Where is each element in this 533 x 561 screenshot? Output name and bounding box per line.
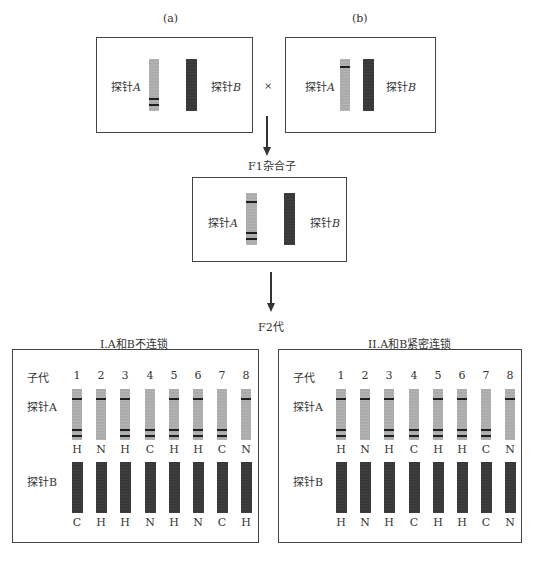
lane-probe-b <box>409 462 420 513</box>
band-lower <box>457 429 467 431</box>
progeny-number: 7 <box>215 369 229 382</box>
lane-probe-a <box>241 389 251 440</box>
band-lower <box>217 429 227 431</box>
lanes-container: 1HH2NN3HH4CC5HH6HH7CC8NN <box>279 350 521 542</box>
band-top <box>120 398 130 400</box>
lane-probe-b <box>433 462 444 513</box>
band-lower <box>120 429 130 431</box>
lane-probe-b <box>241 462 252 513</box>
genotype-probe-a: C <box>215 443 229 456</box>
band-lower <box>481 429 491 431</box>
lane-probe-a <box>336 389 346 440</box>
lane-probe-a <box>169 389 179 440</box>
probe-b-label: 探针B <box>386 78 416 94</box>
arrow-down-icon <box>263 147 271 156</box>
genotype-probe-b: C <box>407 516 421 529</box>
progeny-number: 8 <box>503 369 517 382</box>
lane-probe-a <box>246 193 257 245</box>
genotype-probe-a: H <box>431 443 445 456</box>
band-top <box>241 398 251 400</box>
genotype-probe-a: C <box>143 443 157 456</box>
band-lower <box>457 435 467 437</box>
progeny-number: 5 <box>431 369 445 382</box>
band-top <box>505 398 515 400</box>
probe-a-label: 探针A <box>111 78 141 94</box>
genotype-probe-b: C <box>215 516 229 529</box>
band-lower <box>336 435 346 437</box>
genotype-probe-b: H <box>382 516 396 529</box>
genotype-probe-b: H <box>431 516 445 529</box>
genotype-probe-a: H <box>334 443 348 456</box>
genotype-probe-b: H <box>455 516 469 529</box>
panel-1-box: 子代 探针A 探针B 1HC2NH3HH4CN5HH6HN7CC8NH <box>12 349 259 543</box>
lane-probe-a <box>360 389 370 440</box>
band-top <box>336 398 346 400</box>
genotype-probe-b: N <box>503 516 517 529</box>
progeny-number: 6 <box>455 369 469 382</box>
genotype-probe-a: H <box>167 443 181 456</box>
f1-label: F1杂合子 <box>248 157 296 173</box>
genotype-probe-a: H <box>118 443 132 456</box>
lane-probe-b <box>193 462 204 513</box>
lane-probe-b <box>186 59 197 111</box>
lane-probe-a <box>120 389 130 440</box>
genotype-probe-b: H <box>118 516 132 529</box>
lane-probe-a <box>409 389 419 440</box>
genotype-probe-a: H <box>455 443 469 456</box>
genotype-probe-a: H <box>191 443 205 456</box>
band-top <box>169 398 179 400</box>
lane-probe-b <box>145 462 156 513</box>
progeny-number: 5 <box>167 369 181 382</box>
arrow-down-icon <box>267 303 275 312</box>
lane-probe-a <box>72 389 82 440</box>
progeny-number: 7 <box>479 369 493 382</box>
lane-probe-a <box>457 389 467 440</box>
genotype-probe-b: H <box>94 516 108 529</box>
probe-b-label: 探针B <box>310 214 340 230</box>
band-lower <box>145 435 155 437</box>
progeny-number: 8 <box>239 369 253 382</box>
lane-probe-b <box>284 193 295 245</box>
lane-probe-a <box>145 389 155 440</box>
lane-probe-b <box>217 462 228 513</box>
lane-probe-b <box>505 462 516 513</box>
band-top <box>72 398 82 400</box>
lane-probe-b <box>384 462 395 513</box>
progeny-number: 2 <box>358 369 372 382</box>
lane-probe-a <box>340 59 350 111</box>
lane-probe-a <box>96 389 106 440</box>
genotype-probe-a: N <box>358 443 372 456</box>
band-lower <box>169 429 179 431</box>
progeny-number: 4 <box>407 369 421 382</box>
progeny-number: 1 <box>334 369 348 382</box>
lane-probe-a <box>481 389 491 440</box>
lane-probe-b <box>169 462 180 513</box>
lane-probe-a <box>384 389 394 440</box>
parent-a-box: 探针A 探针B <box>96 37 253 133</box>
parent-b-label: (b) <box>352 12 368 25</box>
genotype-probe-a: H <box>382 443 396 456</box>
genotype-probe-b: N <box>191 516 205 529</box>
lane-probe-b <box>360 462 371 513</box>
probe-a-label: 探针A <box>305 78 335 94</box>
band-top <box>360 398 370 400</box>
genotype-probe-b: C <box>479 516 493 529</box>
lane-probe-a <box>433 389 443 440</box>
lane-probe-b <box>96 462 107 513</box>
genotype-probe-b: H <box>239 516 253 529</box>
band-top <box>384 398 394 400</box>
probe-b-label: 探针B <box>211 78 241 94</box>
band-lower <box>169 435 179 437</box>
genotype-probe-a: N <box>503 443 517 456</box>
progeny-number: 1 <box>70 369 84 382</box>
cross-symbol: × <box>264 80 272 91</box>
probe-a-label: 探针A <box>208 214 238 230</box>
band-lower <box>384 435 394 437</box>
parent-b-box: 探针A 探针B <box>285 37 436 133</box>
genotype-probe-a: H <box>70 443 84 456</box>
lane-probe-b <box>363 59 374 111</box>
progeny-number: 2 <box>94 369 108 382</box>
arrow-line <box>266 116 268 150</box>
genotype-probe-b: C <box>70 516 84 529</box>
band-lower <box>409 429 419 431</box>
